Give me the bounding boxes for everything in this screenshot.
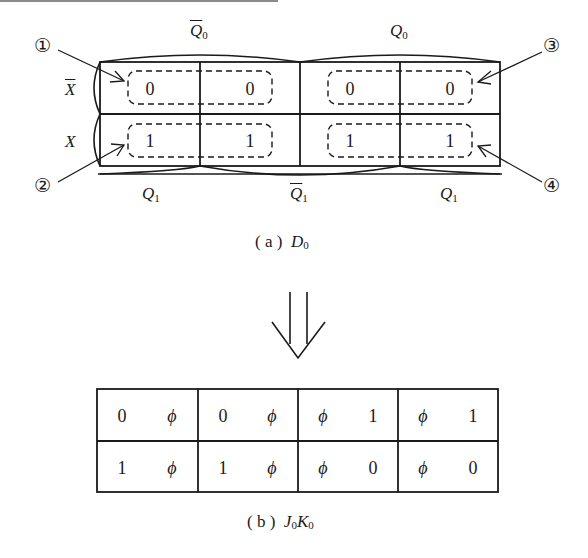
marker-4: ④ <box>543 176 560 195</box>
col-header-q1-left: Q1 <box>142 185 160 204</box>
jk-cell-k: ϕ <box>162 407 182 425</box>
kmap-cell: 0 <box>440 80 460 98</box>
jk-cell-k: 0 <box>463 459 483 477</box>
kmap-cell: 1 <box>140 132 160 150</box>
diagram-lines <box>0 0 588 558</box>
jk-cell-k: ϕ <box>262 459 282 477</box>
bottom-braces <box>98 166 502 175</box>
marker-2: ② <box>34 176 51 195</box>
kmap-cell: 1 <box>440 132 460 150</box>
col-header-q0: Q0 <box>390 22 408 41</box>
col-header-q1-bar: Q1 <box>290 185 308 204</box>
jk-cell-k: ϕ <box>262 407 282 425</box>
caption-b: ( b ) J0K0 <box>247 513 314 531</box>
double-down-arrow-icon <box>272 292 325 358</box>
jk-cell-j: ϕ <box>313 459 333 477</box>
marker-3: ③ <box>543 36 560 55</box>
jk-cell-j: 1 <box>213 459 233 477</box>
caption-a: ( a ) D0 <box>255 233 309 251</box>
kmap-grid <box>100 62 500 166</box>
jk-cell-k: 0 <box>363 459 383 477</box>
row-header-x-bar: X <box>65 81 75 98</box>
jk-cell-k: 1 <box>363 407 383 425</box>
col-header-q0-bar: Q0 <box>190 22 208 41</box>
top-braces <box>100 55 500 62</box>
jk-cell-k: ϕ <box>162 459 182 477</box>
kmap-cell: 0 <box>340 80 360 98</box>
marker-1: ① <box>34 36 51 55</box>
jk-cell-k: 1 <box>463 407 483 425</box>
kmap-cell: 0 <box>240 80 260 98</box>
jk-table-grid <box>97 389 498 492</box>
jk-cell-j: 0 <box>213 407 233 425</box>
jk-cell-j: 0 <box>112 407 132 425</box>
col-header-q1-right: Q1 <box>440 185 458 204</box>
jk-cell-j: ϕ <box>413 407 433 425</box>
jk-cell-j: 1 <box>112 459 132 477</box>
kmap-cell: 1 <box>340 132 360 150</box>
jk-cell-j: ϕ <box>413 459 433 477</box>
row-header-x: X <box>65 133 75 150</box>
jk-cell-j: ϕ <box>313 407 333 425</box>
kmap-cell: 1 <box>240 132 260 150</box>
kmap-cell: 0 <box>140 80 160 98</box>
